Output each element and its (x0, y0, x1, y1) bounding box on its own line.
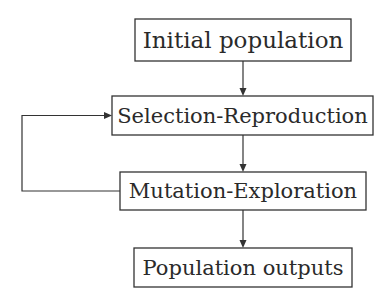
edge-mutation-to-outputs (240, 210, 247, 248)
node-initial-population: Initial population (135, 19, 351, 61)
node-population-outputs: Population outputs (134, 248, 352, 287)
edge-initial-to-selection (240, 61, 247, 96)
node-label: Mutation-Exploration (129, 179, 357, 203)
flowchart: Initial population Selection-Reproductio… (0, 0, 391, 297)
edge-mutation-to-selection-feedback (22, 112, 120, 191)
node-selection-reproduction: Selection-Reproduction (112, 96, 373, 135)
node-label: Initial population (143, 27, 344, 53)
arrowhead-icon (104, 112, 112, 119)
node-label: Population outputs (143, 256, 344, 280)
arrowhead-icon (240, 240, 247, 248)
node-label: Selection-Reproduction (117, 104, 368, 128)
edge-line (22, 116, 120, 192)
node-mutation-exploration: Mutation-Exploration (120, 172, 366, 210)
edge-selection-to-mutation (240, 135, 247, 172)
arrowhead-icon (240, 88, 247, 96)
arrowhead-icon (240, 164, 247, 172)
